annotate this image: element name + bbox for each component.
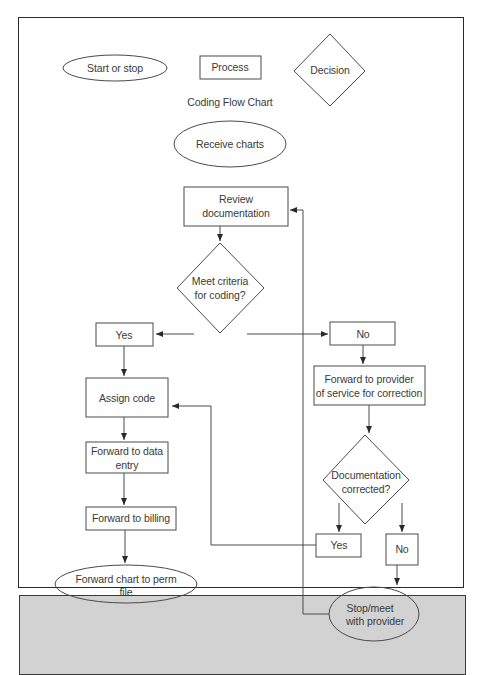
criteria-label-line2: for coding? [195, 289, 246, 302]
receive-charts-label: Receive charts [196, 138, 264, 151]
data-entry-label-line2: entry [116, 459, 139, 472]
yes-label-2: Yes [331, 539, 348, 552]
legend-decision-label: Decision [310, 64, 349, 77]
corrected-label-line1: Documentation [331, 469, 400, 482]
billing-label: Forward to billing [92, 512, 170, 525]
corrected-label-line2: corrected? [342, 483, 391, 496]
provider-label-line2: of service for correction [316, 387, 423, 400]
data-entry-label-line1: Forward to data [91, 445, 163, 458]
perm-label-line1: Forward chart to perm [75, 573, 176, 586]
no-label-2: No [395, 543, 408, 556]
review-label-line2: documentation [202, 207, 270, 220]
stop-label-line1: Stop/meet [347, 602, 394, 615]
review-label-line1: Review [219, 193, 253, 206]
provider-label-line1: Forward to provider [324, 373, 413, 386]
legend-terminal-label: Start or stop [87, 62, 143, 75]
legend-process-label: Process [211, 61, 248, 74]
stop-label-line2: with provider [346, 615, 404, 628]
criteria-label-line1: Meet criteria [192, 275, 248, 288]
no-label-1: No [356, 328, 369, 341]
yes-label-1: Yes [116, 329, 133, 342]
chart-title: Coding Flow Chart [187, 96, 272, 109]
perm-label-line2: file [119, 586, 132, 599]
assign-code-label: Assign code [99, 392, 155, 405]
